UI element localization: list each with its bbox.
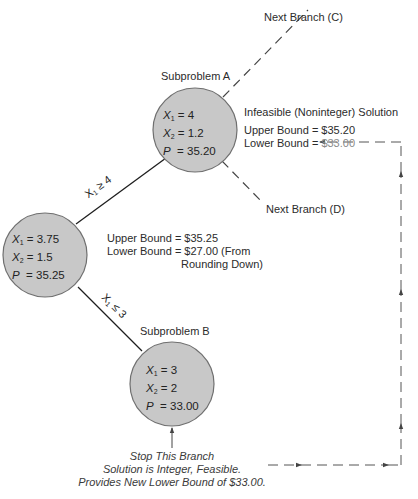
stop-note-line2: Solution is Integer, Feasible.	[72, 463, 272, 476]
subproblem-b-values: X1 = 3 X2 = 2 P = 33.00	[146, 363, 199, 413]
subproblem-b-p: P = 33.00	[146, 399, 199, 413]
subproblem-a-status: Infeasible (Noninteger) Solution	[244, 106, 398, 119]
subproblem-a-p: P = 35.20	[163, 144, 216, 158]
subproblem-a-lower-bound: Lower Bound = $33.00	[244, 137, 355, 150]
subproblem-b-title: Subproblem B	[140, 325, 210, 338]
root-p: P = 35.25	[12, 268, 65, 282]
root-x2: X2 = 1.5	[12, 250, 65, 268]
root-upper-bound: Upper Bound = $35.25	[107, 232, 218, 245]
next-branch-d-line	[222, 161, 262, 202]
next-branch-c-label: Next Branch (C)	[264, 11, 343, 24]
subproblem-a-lower-bound-value: $33.00	[321, 137, 355, 149]
root-lower-bound: Lower Bound = $27.00 (From	[107, 245, 250, 258]
subproblem-a-values: X1 = 4 X2 = 1.2 P = 35.20	[163, 108, 216, 158]
root-lower-bound-note: Rounding Down)	[181, 258, 263, 271]
subproblem-b-x2: X2 = 2	[146, 381, 199, 399]
subproblem-a-x1: X1 = 4	[163, 108, 216, 126]
lower-bound-feedback-path	[268, 142, 401, 465]
next-branch-d-label: Next Branch (D)	[266, 203, 345, 216]
subproblem-b-x1: X1 = 3	[146, 363, 199, 381]
stop-branch-note: Stop This Branch Solution is Integer, Fe…	[72, 450, 272, 489]
root-x1: X1 = 3.75	[12, 232, 65, 250]
stop-note-line1: Stop This Branch	[72, 450, 272, 463]
subproblem-a-title: Subproblem A	[161, 70, 230, 83]
subproblem-a-x2: X2 = 1.2	[163, 126, 216, 144]
stop-note-line3: Provides New Lower Bound of $33.00.	[72, 476, 272, 489]
subproblem-a-upper-bound: Upper Bound = $35.20	[244, 124, 355, 137]
root-node-values: X1 = 3.75 X2 = 1.5 P = 35.25	[12, 232, 65, 282]
